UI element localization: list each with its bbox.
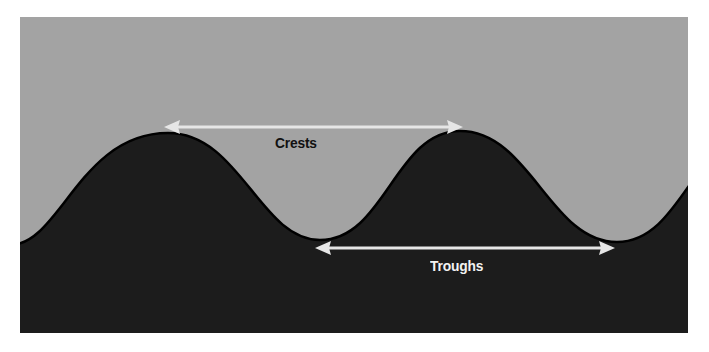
troughs-label: Troughs <box>430 257 483 274</box>
crests-label: Crests <box>275 134 317 151</box>
wave-diagram <box>0 0 709 352</box>
